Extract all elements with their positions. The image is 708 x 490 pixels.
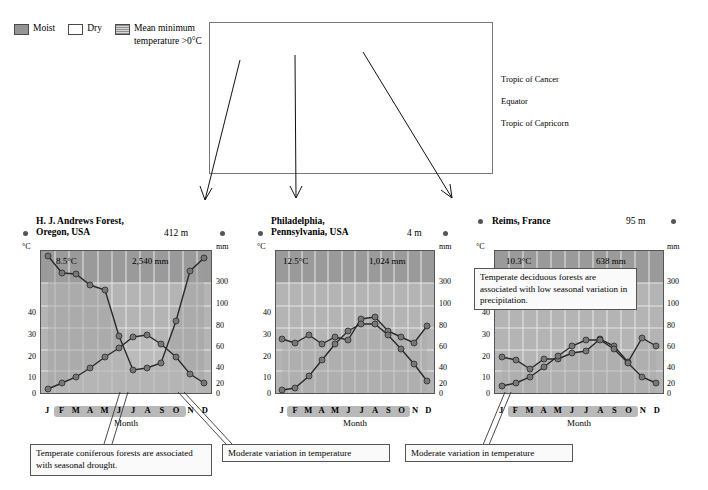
callout-leader-lines <box>0 0 708 490</box>
callout-deciduous-precipitation: Temperate deciduous forests are associat… <box>474 268 637 310</box>
callout-reims-temperature: Moderate variation in temperature <box>405 444 573 462</box>
callout-philadelphia-temperature: Moderate variation in temperature <box>222 444 390 462</box>
callout-coniferous-drought: Temperate coniferous forests are associa… <box>30 444 212 476</box>
